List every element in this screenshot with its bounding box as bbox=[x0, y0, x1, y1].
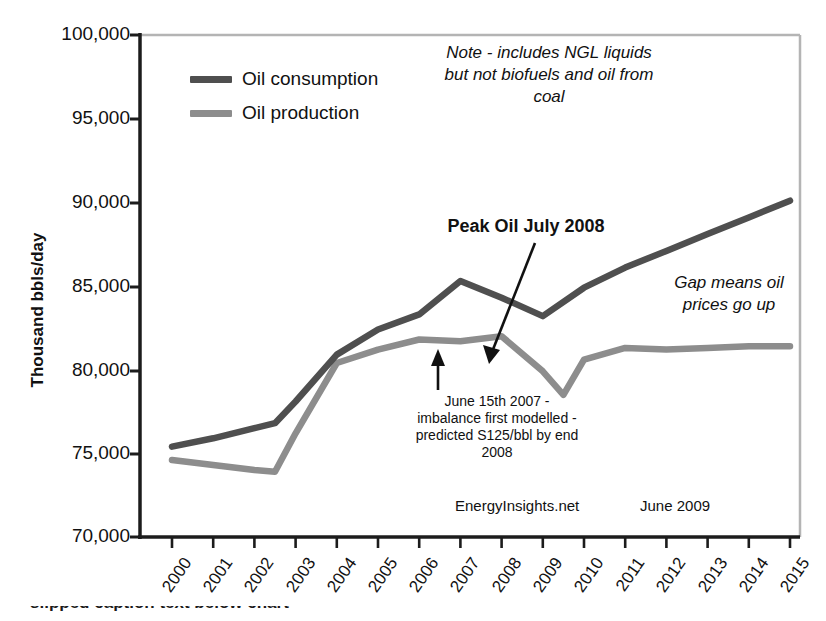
x-tick-label: 2010 bbox=[564, 554, 608, 605]
legend-item-oil-consumption: Oil consumption bbox=[190, 62, 420, 96]
x-tick-label: 2014 bbox=[729, 554, 773, 605]
x-tick-label: 2001 bbox=[194, 554, 238, 605]
x-tick-label: 2004 bbox=[317, 554, 361, 605]
annotation-ngl-note: Note - includes NGL liquids but not biof… bbox=[414, 42, 684, 108]
x-tick-label: 2012 bbox=[647, 554, 691, 605]
clipped-footer-caption: slipped caption text below chart bbox=[0, 606, 826, 621]
x-tick-label: 2011 bbox=[606, 554, 650, 605]
x-tick-label: 2000 bbox=[152, 554, 196, 605]
annotation-peak-oil: Peak Oil July 2008 bbox=[406, 216, 646, 237]
x-tick-label: 2007 bbox=[441, 554, 485, 605]
legend-label-oil-production: Oil production bbox=[242, 102, 359, 124]
legend-swatch-oil-production bbox=[190, 110, 232, 117]
oil-supply-demand-chart: Thousand bbls/day 100,000 95,000 90,000 … bbox=[0, 0, 826, 621]
annotation-source: EnergyInsights.net bbox=[455, 497, 579, 514]
x-tick-label: 2008 bbox=[482, 554, 526, 605]
chart-legend: Oil consumption Oil production bbox=[190, 62, 420, 130]
clipped-footer-text: slipped caption text below chart bbox=[30, 606, 289, 613]
x-tick-label: 2009 bbox=[523, 554, 567, 605]
annotation-date: June 2009 bbox=[640, 497, 710, 514]
x-tick-label: 2005 bbox=[358, 554, 402, 605]
x-tick-label: 2013 bbox=[688, 554, 732, 605]
x-tick-label: 2015 bbox=[770, 554, 814, 605]
legend-item-oil-production: Oil production bbox=[190, 96, 420, 130]
x-tick-label: 2002 bbox=[235, 554, 279, 605]
annotation-june-2007: June 15th 2007 - imbalance first modelle… bbox=[378, 393, 616, 461]
legend-swatch-oil-consumption bbox=[190, 76, 232, 83]
legend-label-oil-consumption: Oil consumption bbox=[242, 68, 378, 90]
annotation-gap-means: Gap means oil prices go up bbox=[654, 272, 804, 316]
x-tick-label: 2003 bbox=[276, 554, 320, 605]
x-tick-label: 2006 bbox=[400, 554, 444, 605]
